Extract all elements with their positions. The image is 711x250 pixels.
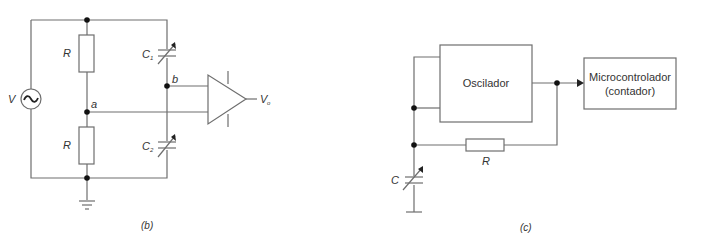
circuit-diagram: V R R C 1 C 2 a	[0, 0, 711, 250]
resistor-bottom-label: R	[63, 139, 71, 151]
junction-dot	[554, 80, 560, 86]
cap-c1-subscript: 1	[150, 55, 153, 61]
junction-dot	[411, 105, 417, 111]
microcontroller-label-line1: Microcontrolador	[589, 71, 671, 83]
variable-capacitor-c-icon	[403, 166, 423, 190]
node-b-dot	[164, 83, 170, 89]
resistor-r-label: R	[482, 155, 490, 167]
differential-amplifier-icon	[208, 71, 257, 127]
resistor-top-label: R	[63, 47, 71, 59]
ground-icon	[79, 201, 95, 209]
source-label: V	[8, 93, 17, 105]
microcontroller-label-line2: (contador)	[605, 85, 655, 97]
resistor-bottom	[79, 127, 94, 164]
arrow-right-icon	[577, 79, 584, 87]
junction-dot	[84, 17, 90, 23]
node-a-dot	[84, 109, 90, 115]
figure-c: Oscilador Microcontrolador (contador) R …	[391, 45, 676, 233]
oscillator-label: Oscilador	[463, 77, 510, 89]
output-subscript: o	[267, 100, 271, 106]
node-b-label: b	[172, 73, 178, 85]
junction-dot	[84, 175, 90, 181]
cap-c1-label: C	[142, 48, 150, 60]
resistor-top	[79, 35, 94, 72]
bridge-outer-wire	[31, 20, 167, 178]
microcontroller-box	[584, 58, 676, 109]
cap-left-wire	[414, 57, 440, 212]
caption-c: (c)	[520, 222, 532, 233]
junction-dot	[411, 142, 417, 148]
node-a-label: a	[91, 98, 97, 110]
capacitor-c-label: C	[391, 174, 399, 186]
caption-b: (b)	[141, 220, 153, 231]
resistor-r	[466, 139, 504, 151]
cap-c2-subscript: 2	[149, 147, 154, 153]
ac-source-icon	[21, 89, 41, 109]
figure-b: V R R C 1 C 2 a	[8, 17, 271, 231]
cap-c2-label: C	[142, 140, 150, 152]
